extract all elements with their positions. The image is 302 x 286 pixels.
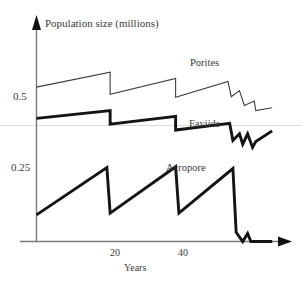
series-line-porites — [37, 72, 273, 111]
x-axis-title: Years — [124, 263, 146, 273]
series-label-faviids: Faviids — [189, 119, 220, 130]
x-axis-tick-label: 20 — [110, 248, 120, 258]
y-axis-title: Population size (millions) — [45, 18, 159, 29]
y-axis-tick-label: 0.25 — [11, 162, 30, 173]
population-size-chart: Population size (millions) 0.5 0.25 20 4… — [0, 0, 302, 286]
x-axis-tick-label: 40 — [178, 248, 188, 258]
series-line-faviids — [37, 111, 273, 148]
x-axis-arrowhead — [278, 237, 292, 247]
series-label-porites: Porites — [190, 58, 219, 69]
series-label-acropore: Acropore — [166, 163, 206, 174]
series-line-acropore — [37, 167, 273, 242]
chart-plot-area — [0, 0, 302, 286]
y-axis-tick-label: 0.5 — [13, 91, 27, 102]
y-axis-arrowhead — [32, 15, 41, 30]
